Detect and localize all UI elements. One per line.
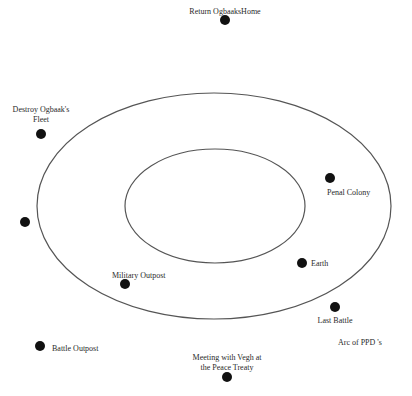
last-battle-label: Last Battle <box>318 316 353 326</box>
meeting-vegh-dot-icon <box>222 372 232 382</box>
diagram-canvas <box>0 0 412 396</box>
penal-colony-dot-icon <box>325 173 335 183</box>
penal-colony-label: Penal Colony <box>327 188 370 198</box>
destroy-ogbaaks-fleet-dot-icon <box>36 129 46 139</box>
meeting-vegh-label-line: the Peace Treaty <box>193 363 262 373</box>
unnamed-node-dot-icon <box>20 217 30 227</box>
last-battle-dot-icon <box>330 302 340 312</box>
battle-outpost-dot-icon <box>35 341 45 351</box>
return-ogbaaks-home-label: Return OgbaaksHome <box>189 7 260 17</box>
earth-dot-icon <box>297 258 307 268</box>
inner-orbit <box>125 149 305 263</box>
meeting-vegh-label-line: Meeting with Vegh at <box>193 353 262 363</box>
outer-orbit <box>37 93 391 319</box>
diagram-caption: Arc of PPD 's <box>338 338 382 348</box>
destroy-ogbaaks-fleet-label: Destroy Ogbaak'sFleet <box>13 105 70 125</box>
meeting-vegh-label: Meeting with Vegh atthe Peace Treaty <box>193 353 262 373</box>
destroy-ogbaaks-fleet-label-line: Fleet <box>13 115 70 125</box>
earth-label: Earth <box>311 259 328 269</box>
military-outpost-label: Military Outpost <box>112 271 166 281</box>
destroy-ogbaaks-fleet-label-line: Destroy Ogbaak's <box>13 105 70 115</box>
battle-outpost-label: Battle Outpost <box>52 344 98 354</box>
